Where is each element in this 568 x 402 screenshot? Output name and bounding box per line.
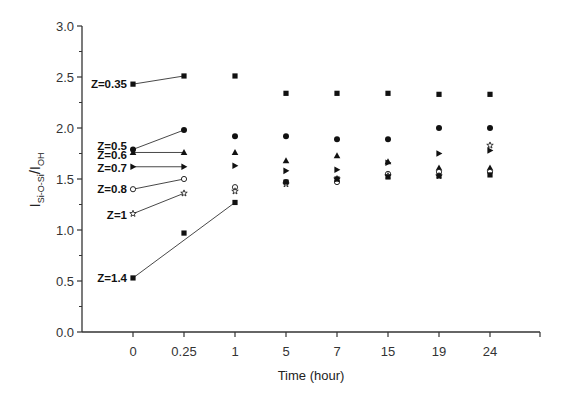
series-markers xyxy=(130,73,492,97)
x-tick-label: 19 xyxy=(432,344,446,359)
x-tick-label: 0.25 xyxy=(171,344,196,359)
x-tick-label: 15 xyxy=(381,344,395,359)
x-tick-label: 0 xyxy=(129,344,136,359)
series-line xyxy=(133,202,235,277)
x-tick-label: 5 xyxy=(282,344,289,359)
series-labels: Z=0.35Z=0.5Z=0.6Z=0.7Z=0.8Z=1Z=1.4 xyxy=(91,78,128,284)
chart: 0.00.51.01.52.02.53.0 00.25157151924 Z=0… xyxy=(0,0,568,402)
x-axis-title: Time (hour) xyxy=(278,368,345,383)
y-tick-label: 1.5 xyxy=(56,172,74,187)
svg-text:ISi-O-Si/IOH: ISi-O-Si/IOH xyxy=(26,152,46,207)
series-line xyxy=(133,130,184,149)
series-label: Z=1.4 xyxy=(97,272,127,284)
axes xyxy=(82,26,540,337)
series-label: Z=0.35 xyxy=(91,78,128,90)
series-label: Z=0.6 xyxy=(97,149,127,161)
y-axis-title: ISi-O-Si/IOH xyxy=(26,152,46,207)
series-label: Z=0.8 xyxy=(97,183,127,195)
y-tick-label: 2.5 xyxy=(56,70,74,85)
series-label: Z=1 xyxy=(107,209,128,221)
y-axis-ticks: 0.00.51.01.52.02.53.0 xyxy=(56,19,82,340)
series-markers xyxy=(130,125,493,152)
series-line xyxy=(133,179,184,189)
x-tick-label: 24 xyxy=(483,344,497,359)
y-tick-label: 0.5 xyxy=(56,274,74,289)
y-tick-label: 2.0 xyxy=(56,121,74,136)
series-line xyxy=(133,193,184,213)
series-markers xyxy=(130,172,492,280)
series-line xyxy=(133,76,184,84)
x-axis-ticks: 00.25157151924 xyxy=(129,332,497,359)
x-tick-label: 1 xyxy=(231,344,238,359)
y-tick-label: 1.0 xyxy=(56,223,74,238)
series-points xyxy=(130,73,494,280)
y-tick-label: 3.0 xyxy=(56,19,74,34)
x-tick-label: 7 xyxy=(333,344,340,359)
series-markers xyxy=(130,169,492,192)
y-tick-label: 0.0 xyxy=(56,325,74,340)
series-label: Z=0.7 xyxy=(97,162,127,174)
